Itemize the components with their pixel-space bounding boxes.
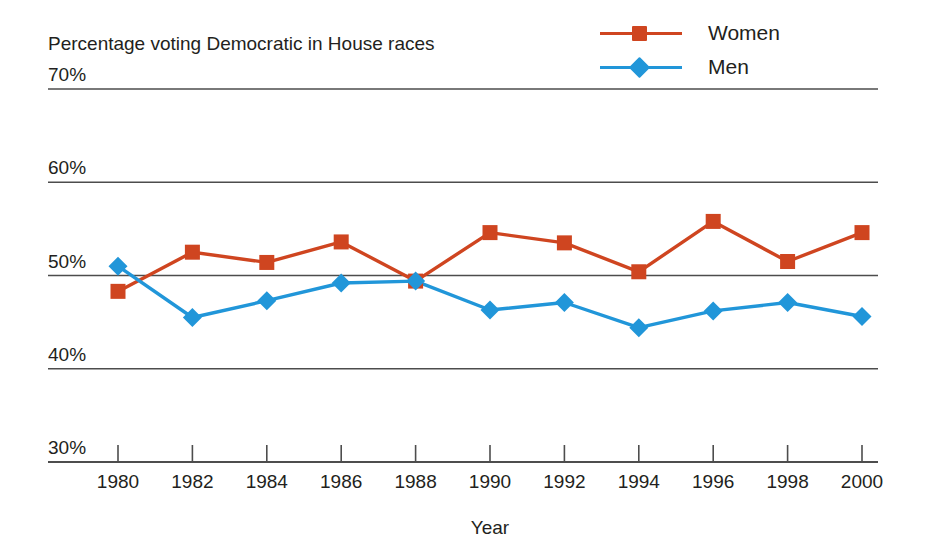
x-axis-title: Year bbox=[471, 517, 509, 539]
x-tick-label-1986: 1986 bbox=[320, 471, 362, 493]
x-tick-label-1988: 1988 bbox=[394, 471, 436, 493]
x-tick-label-1996: 1996 bbox=[692, 471, 734, 493]
x-tick-label-1990: 1990 bbox=[469, 471, 511, 493]
x-tick-label-1998: 1998 bbox=[766, 471, 808, 493]
y-tick-label-40: 40% bbox=[48, 344, 86, 366]
x-tick-label-1992: 1992 bbox=[543, 471, 585, 493]
labels-layer: 30%40%50%60%70%1980198219841986198819901… bbox=[0, 0, 933, 555]
x-tick-label-1994: 1994 bbox=[618, 471, 660, 493]
y-tick-label-70: 70% bbox=[48, 64, 86, 86]
x-tick-label-1984: 1984 bbox=[246, 471, 288, 493]
y-tick-label-30: 30% bbox=[48, 437, 86, 459]
x-tick-label-1980: 1980 bbox=[97, 471, 139, 493]
chart-screenshot: Percentage voting Democratic in House ra… bbox=[0, 0, 933, 555]
x-tick-label-1982: 1982 bbox=[171, 471, 213, 493]
y-tick-label-60: 60% bbox=[48, 157, 86, 179]
y-tick-label-50: 50% bbox=[48, 251, 86, 273]
x-tick-label-2000: 2000 bbox=[841, 471, 883, 493]
